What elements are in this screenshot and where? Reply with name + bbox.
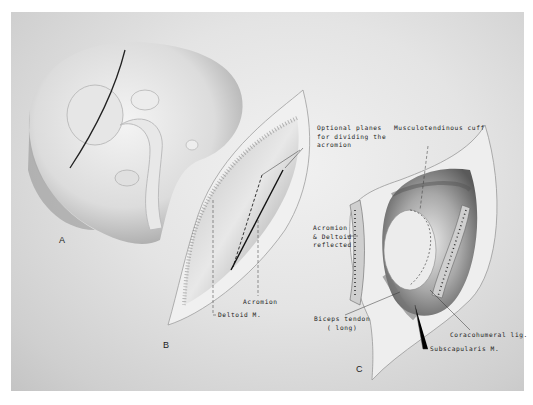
label-acromion-deltoid-reflected: Acromion & Deltoid reflected [313, 224, 352, 250]
label-biceps-tendon: Biceps tendon ( long) [314, 315, 370, 332]
panel-label-c: C [356, 364, 363, 374]
panel-label-b: B [163, 340, 169, 350]
label-acromion: Acromion [243, 298, 278, 307]
label-subscapularis: Subscapularis M. [430, 345, 499, 354]
label-coracohumeral-lig: Coracohumeral lig. [450, 331, 528, 340]
label-optional-planes: Optional planes for dividing the acromio… [317, 124, 386, 150]
panel-c-exposure [345, 125, 497, 380]
label-deltoid: Deltoid M. [218, 311, 261, 320]
label-musculotendinous-cuff: Musculotendinous cuff [394, 124, 485, 133]
panel-label-a: A [59, 235, 65, 245]
